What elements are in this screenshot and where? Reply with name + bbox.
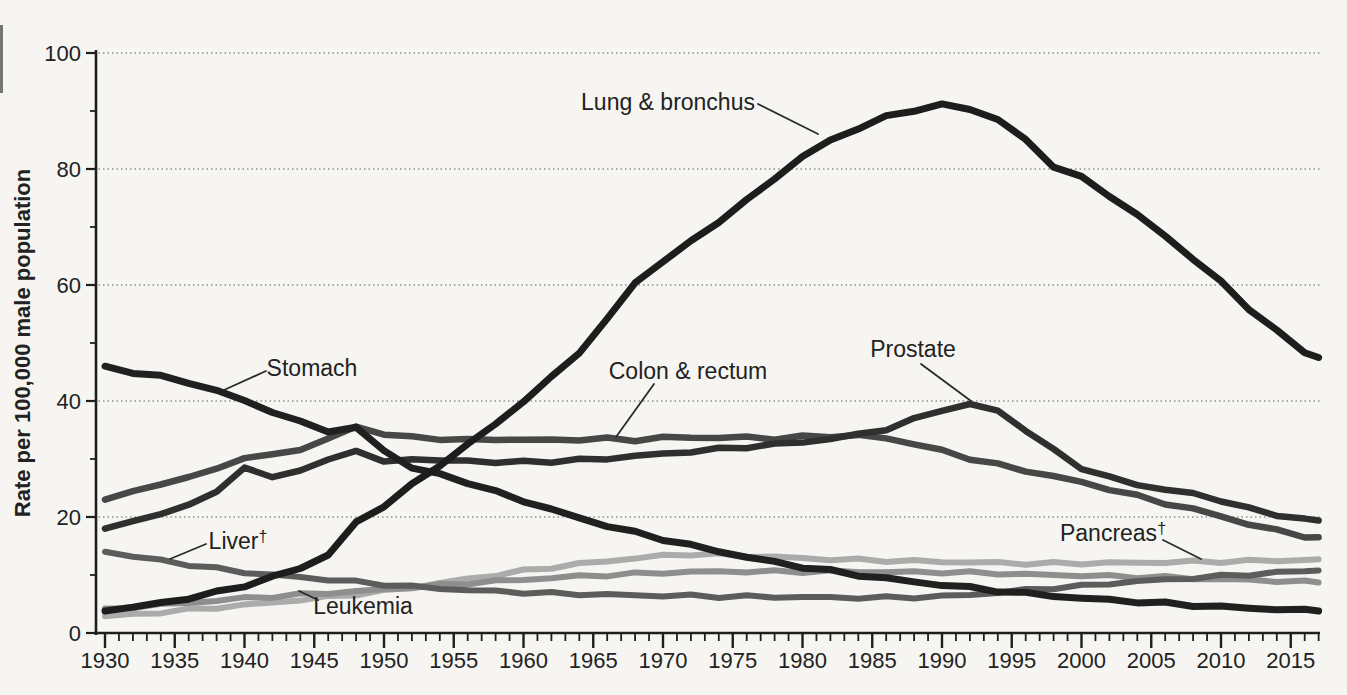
series-label-stomach: Stomach: [267, 355, 358, 381]
x-tick-label-1980: 1980: [778, 648, 827, 673]
x-tick-label-2005: 2005: [1127, 648, 1176, 673]
series-label-pancreas: Pancreas†: [1060, 520, 1166, 546]
series-label-colon-rectum: Colon & rectum: [609, 358, 768, 384]
y-tick-label-40: 40: [57, 389, 81, 414]
x-tick-label-2000: 2000: [1057, 648, 1106, 673]
series-label-leukemia: Leukemia: [313, 593, 413, 619]
x-tick-label-1935: 1935: [150, 648, 199, 673]
y-tick-label-80: 80: [57, 157, 81, 182]
y-axis-title: Rate per 100,000 male population: [10, 169, 35, 517]
y-tick-label-100: 100: [44, 41, 81, 66]
dagger-footnote-mark: †: [1157, 520, 1166, 537]
scan-artifact: [0, 25, 3, 93]
x-tick-label-1995: 1995: [987, 648, 1036, 673]
x-tick-label-1970: 1970: [639, 648, 688, 673]
x-tick-label-2010: 2010: [1197, 648, 1246, 673]
cancer-mortality-line-chart: 0204060801001930193519401945195019551960…: [0, 0, 1347, 695]
x-tick-label-1990: 1990: [918, 648, 967, 673]
chart-canvas: 0204060801001930193519401945195019551960…: [0, 0, 1347, 695]
y-tick-label-0: 0: [69, 621, 81, 646]
x-tick-label-1930: 1930: [81, 648, 130, 673]
x-tick-label-1960: 1960: [499, 648, 548, 673]
y-tick-label-20: 20: [57, 505, 81, 530]
x-tick-label-1940: 1940: [220, 648, 269, 673]
x-tick-label-1955: 1955: [429, 648, 478, 673]
y-tick-label-60: 60: [57, 273, 81, 298]
x-tick-label-1945: 1945: [290, 648, 339, 673]
x-tick-label-1975: 1975: [708, 648, 757, 673]
x-tick-label-1985: 1985: [848, 648, 897, 673]
x-tick-label-2015: 2015: [1266, 648, 1315, 673]
x-tick-label-1950: 1950: [360, 648, 409, 673]
x-tick-label-1965: 1965: [569, 648, 618, 673]
series-label-lung-bronchus: Lung & bronchus: [581, 89, 755, 115]
series-label-prostate: Prostate: [870, 336, 956, 362]
dagger-footnote-mark: †: [258, 528, 267, 545]
